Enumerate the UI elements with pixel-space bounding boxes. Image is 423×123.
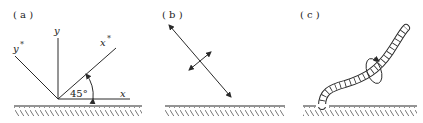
y-label: y	[53, 25, 60, 36]
angle-label: 45°	[70, 88, 88, 99]
short-arrow-up-icon	[200, 52, 211, 61]
y-star-axis	[15, 56, 58, 99]
figure: ( a ) y y * x * x 45° ( b ) ( c )	[0, 0, 423, 123]
y-star-label: y	[12, 43, 19, 54]
x-star-sup: *	[107, 34, 111, 43]
panel-b: ( b )	[162, 9, 285, 116]
panel-a: ( a ) y y * x * x 45°	[12, 9, 142, 116]
x-star-label: x	[100, 37, 106, 48]
long-arrow-down-icon	[200, 61, 231, 97]
y-star-sup: *	[20, 40, 24, 49]
long-arrow-up-icon	[169, 25, 200, 61]
short-arrow-down-icon	[189, 61, 200, 70]
panel-c-label: ( c )	[300, 9, 320, 20]
helix-tube-outline	[322, 28, 406, 106]
ground-hatch	[14, 107, 142, 116]
panel-c: ( c )	[300, 9, 417, 116]
x-label: x	[120, 88, 126, 99]
ground-hatch	[165, 107, 285, 116]
panel-b-label: ( b )	[162, 9, 183, 20]
panel-a-label: ( a )	[13, 9, 33, 20]
